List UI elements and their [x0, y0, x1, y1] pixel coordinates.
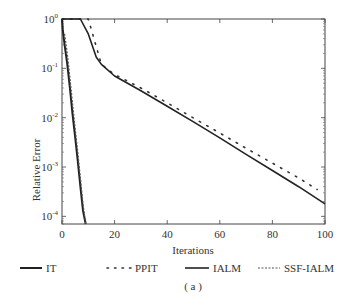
series-it — [62, 19, 86, 224]
chart: 10010-110-210-310-4 020406080100 Relativ… — [0, 0, 349, 307]
y-tick-labels: 10010-110-210-310-4 — [41, 12, 58, 222]
y-tick-label: 10-3 — [41, 160, 58, 173]
series-ssf-ialm — [65, 34, 86, 224]
x-tick-label: 0 — [59, 228, 65, 240]
series-lines — [62, 19, 325, 224]
x-tick-label: 100 — [317, 228, 334, 240]
x-axis-label: Iterations — [172, 244, 214, 256]
legend: ITPPITIALMSSF-IALM — [20, 262, 334, 274]
x-tick-labels: 020406080100 — [59, 228, 334, 240]
x-tick-label: 60 — [214, 228, 226, 240]
legend-label: PPIT — [135, 262, 158, 274]
y-axis-label: Relative Error — [30, 138, 42, 201]
figure-caption: ( a ) — [184, 280, 202, 293]
y-tick-label: 10-1 — [41, 61, 58, 74]
series-ppit — [62, 19, 317, 190]
y-tick-label: 100 — [44, 12, 59, 25]
x-tick-label: 40 — [162, 228, 174, 240]
x-tick-label: 20 — [109, 228, 121, 240]
legend-label: IALM — [213, 262, 241, 274]
x-tick-label: 80 — [267, 228, 279, 240]
legend-label: SSF-IALM — [284, 262, 334, 274]
y-tick-label: 10-2 — [41, 111, 58, 124]
legend-label: IT — [46, 262, 57, 274]
y-tick-label: 10-4 — [41, 209, 58, 222]
series-ialm — [62, 19, 325, 204]
